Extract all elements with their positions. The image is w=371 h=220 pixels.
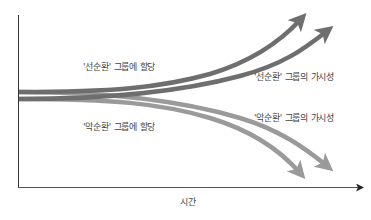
diagram-svg bbox=[0, 0, 371, 220]
x-axis-label: 시간 bbox=[180, 195, 196, 208]
vicious-visibility-label: '악순환' 그룹의 가시성 bbox=[254, 111, 334, 124]
virtuous-visibility-label: '선순환' 그룹의 가시성 bbox=[254, 70, 334, 83]
diagram: '선순환' 그룹에 할당 '선순환' 그룹의 가시성 '악순환' 그룹의 가시성… bbox=[0, 0, 371, 220]
virtuous-visibility-arrow bbox=[19, 31, 327, 99]
vicious-assign-label: '악순환' 그룹에 할당 bbox=[83, 120, 155, 133]
virtuous-assign-label: '선순환' 그룹에 할당 bbox=[83, 60, 155, 73]
